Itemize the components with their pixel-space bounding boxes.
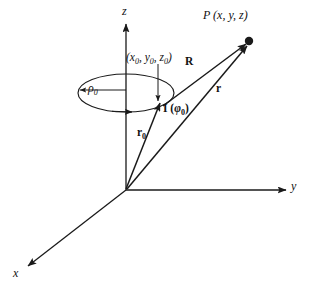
radius-label: ρ0 [88,82,98,97]
axis-y-label: y [291,180,296,192]
phi-subscript: 0 [181,108,185,117]
vector-r-label: r [216,83,221,95]
field-point-dot [245,37,253,45]
vector-r0-label: r0 [137,127,146,141]
figure-canvas: z y x P (x, y, z) (x0, y0, z0) ρ0 R r r0… [0,0,314,286]
coord-z-subscript: 0 [164,57,168,66]
field-point-label: P (x, y, z) [203,9,248,21]
vector-diagram-svg [0,0,314,286]
current-label: I (φ0) [163,103,189,117]
rho-subscript: 0 [94,88,98,97]
axis-x [28,190,126,266]
source-coordinates-label: (x0, y0, z0) [126,52,172,66]
vector-r0 [126,103,160,189]
vector-R-label: R [185,56,193,68]
axis-x-label: x [13,267,18,279]
r0-subscript: 0 [142,132,146,141]
coord-x-subscript: 0 [135,57,139,66]
axis-z-label: z [122,5,127,17]
current-symbol: I [163,102,167,114]
coord-y-subscript: 0 [150,57,154,66]
phi-symbol: φ [174,102,181,114]
